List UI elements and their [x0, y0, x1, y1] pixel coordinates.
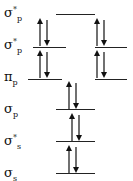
electron-pair-sigma-star-s — [69, 113, 82, 141]
electron-pair-sigma-s — [66, 145, 79, 173]
electron-pair-sigma-star-p-left — [37, 18, 50, 46]
electron-pair-sigma-star-p-right — [94, 18, 107, 46]
electron-pair-sigma-p — [66, 81, 79, 109]
electron-arrows — [0, 0, 133, 181]
electron-pair-pi-p-left — [37, 50, 50, 78]
electron-pair-pi-p-right — [94, 50, 107, 78]
